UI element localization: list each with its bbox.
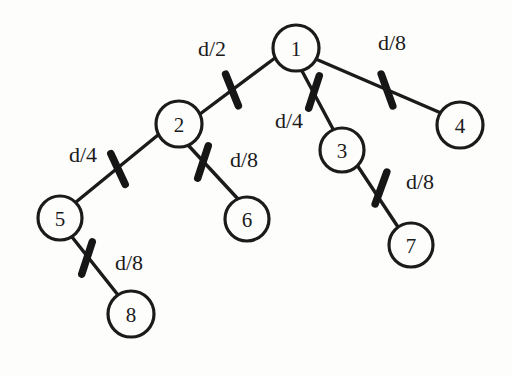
edge-weight-label-2-5: d/4 (69, 142, 97, 167)
edge-tick-mark-2-6 (198, 146, 209, 178)
tree-diagram-canvas: 12345678 d/2d/4d/8d/4d/8d/8d/8 (0, 0, 512, 376)
tree-node-3[interactable]: 3 (320, 128, 364, 172)
node-label-8: 8 (126, 303, 137, 327)
tree-node-5[interactable]: 5 (38, 196, 82, 240)
edge-weight-label-1-4: d/8 (378, 30, 406, 55)
tree-node-2[interactable]: 2 (156, 101, 202, 147)
edge-weight-label-1-3: d/4 (275, 108, 303, 133)
node-label-3: 3 (337, 139, 348, 163)
node-label-4: 4 (455, 114, 466, 138)
tree-node-1[interactable]: 1 (273, 25, 319, 71)
node-label-7: 7 (406, 234, 417, 258)
node-label-5: 5 (55, 207, 66, 231)
tree-node-7[interactable]: 7 (389, 223, 433, 267)
tree-node-4[interactable]: 4 (437, 102, 483, 148)
tree-edge-1-4 (318, 60, 441, 113)
tree-node-6[interactable]: 6 (225, 197, 269, 241)
edge-weight-label-2-6: d/8 (230, 147, 258, 172)
tick-marks-layer (82, 74, 393, 274)
node-label-6: 6 (242, 208, 253, 232)
edge-tick-mark-2-5 (111, 154, 125, 185)
edge-weight-label-5-8: d/8 (115, 250, 143, 275)
edge-tick-mark-5-8 (82, 242, 93, 274)
edge-weight-label-1-2: d/2 (198, 36, 226, 61)
tree-edge-5-8 (72, 237, 118, 295)
tree-node-8[interactable]: 8 (108, 291, 154, 337)
node-label-2: 2 (174, 113, 185, 137)
tree-diagram: 12345678 d/2d/4d/8d/4d/8d/8d/8 (0, 0, 512, 376)
edge-tick-mark-1-2 (226, 74, 239, 106)
node-label-1: 1 (291, 37, 302, 61)
edge-weight-label-3-7: d/8 (406, 169, 434, 194)
